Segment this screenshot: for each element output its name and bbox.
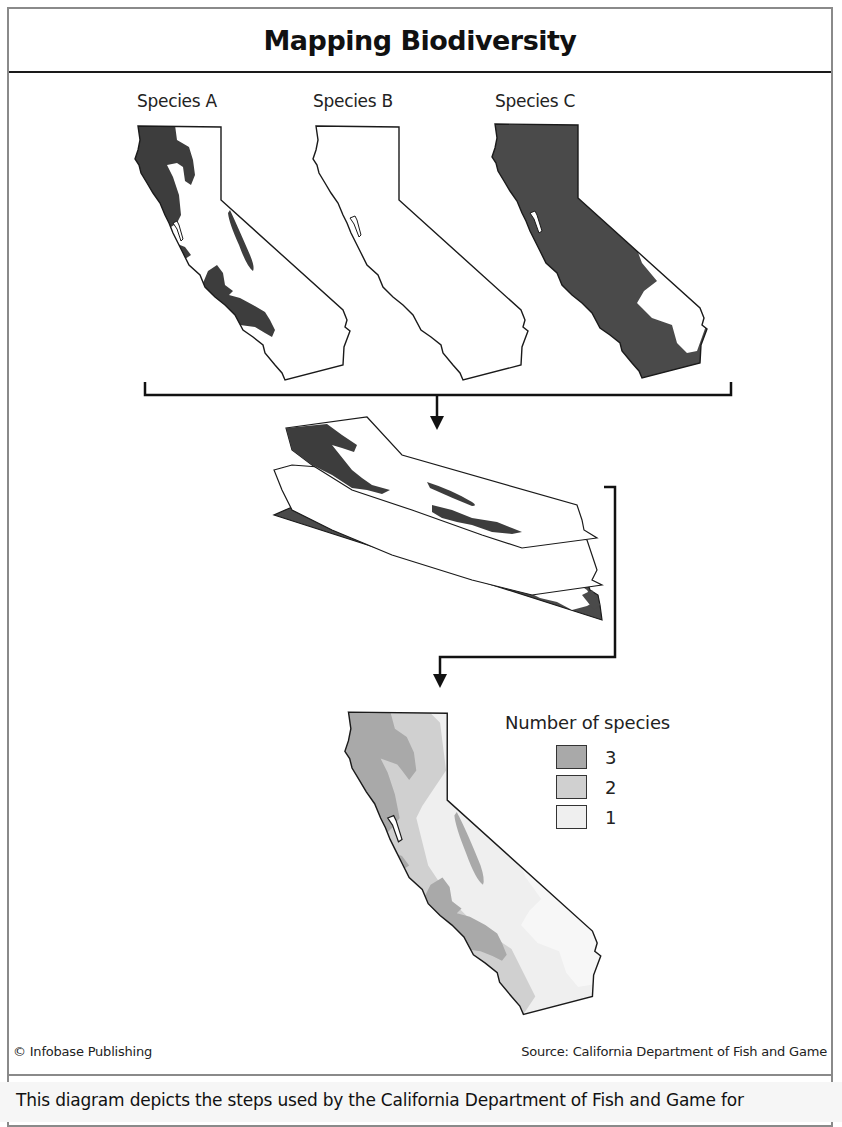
legend-label-2: 2 (605, 777, 616, 798)
caption-divider (9, 1074, 831, 1076)
stacked-layers (274, 417, 602, 620)
legend-label-1: 1 (605, 807, 616, 828)
legend-swatch-3 (556, 745, 587, 769)
source-credit: Source: California Department of Fish an… (521, 1044, 827, 1059)
copyright-credit: © Infobase Publishing (13, 1044, 152, 1059)
legend-item-3: 3 (556, 745, 616, 769)
merge-bracket (145, 382, 731, 420)
arrow-down-icon (433, 674, 447, 688)
legend-item-2: 2 (556, 775, 616, 799)
legend-title: Number of species (505, 712, 670, 733)
legend-label-3: 3 (605, 747, 616, 768)
caption-text: This diagram depicts the steps used by t… (16, 1090, 744, 1110)
legend-swatch-1 (556, 805, 587, 829)
legend-item-1: 1 (556, 805, 616, 829)
arrow-down-icon (430, 416, 444, 430)
legend-swatch-2 (556, 775, 587, 799)
